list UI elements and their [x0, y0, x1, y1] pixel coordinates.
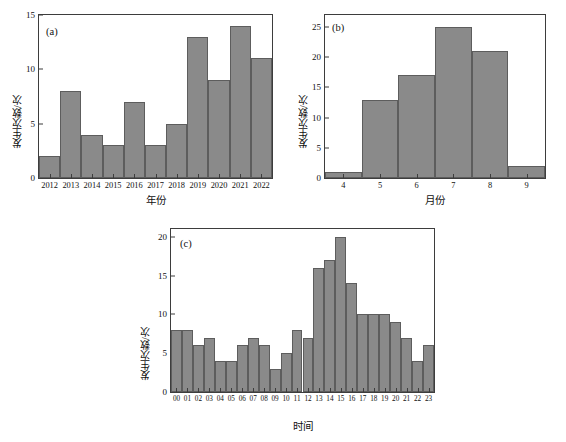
x-tick-label: 5: [378, 178, 382, 190]
y-tick-label: 0: [163, 387, 172, 397]
bar: [204, 338, 215, 392]
y-tick-label: 15: [312, 82, 325, 92]
bar: [335, 237, 346, 392]
x-tick-label: 04: [217, 392, 224, 403]
panel-c-plot-area: 0510152000010203040506070809101112131415…: [170, 228, 435, 393]
y-tick-mark: [325, 147, 329, 148]
x-tick-label: 18: [370, 392, 377, 403]
bar: [313, 268, 324, 392]
bar: [472, 51, 509, 178]
x-tick-label: 2020: [211, 178, 228, 190]
x-tick-label: 09: [272, 392, 279, 403]
x-tick-label: 2015: [105, 178, 122, 190]
bar: [379, 314, 390, 392]
x-tick-label: 2022: [253, 178, 270, 190]
y-tick-label: 0: [317, 173, 326, 183]
panel-b-tag: (b): [332, 22, 344, 33]
bar: [60, 91, 81, 178]
y-tick-label: 20: [158, 232, 171, 242]
y-tick-label: 5: [317, 143, 326, 153]
x-tick-label: 2021: [232, 178, 249, 190]
x-tick-label: 10: [282, 392, 289, 403]
bar: [166, 124, 187, 178]
panel-a-y-axis-label: 发生次数/次: [10, 38, 25, 148]
panel-b-y-axis-label: 发生次数/次: [296, 38, 311, 148]
y-tick-label: 15: [26, 10, 39, 20]
y-tick-label: 20: [312, 52, 325, 62]
panel-c-x-axis-label: 时间: [170, 418, 435, 433]
x-tick-label: 15: [337, 392, 344, 403]
bar: [230, 26, 251, 178]
y-tick-mark: [39, 15, 43, 16]
bar: [357, 314, 368, 392]
x-tick-label: 07: [250, 392, 257, 403]
x-tick-label: 22: [414, 392, 421, 403]
panel-a-x-axis-label: 年份: [38, 192, 273, 207]
bar: [292, 330, 303, 392]
panel-a-plot-area: 0510152012201320142015201620172018201920…: [38, 14, 273, 179]
bar: [401, 338, 412, 392]
x-tick-label: 8: [488, 178, 492, 190]
x-tick-label: 2012: [41, 178, 58, 190]
bar: [208, 80, 229, 178]
x-tick-label: 2016: [126, 178, 143, 190]
y-tick-mark: [325, 87, 329, 88]
y-tick-mark: [171, 275, 175, 276]
x-tick-label: 03: [206, 392, 213, 403]
x-tick-label: 2018: [168, 178, 185, 190]
x-tick-label: 16: [348, 392, 355, 403]
bar: [248, 338, 259, 392]
panel-c-tag: (c): [180, 238, 192, 249]
x-tick-label: 4: [341, 178, 345, 190]
y-tick-mark: [39, 69, 43, 70]
bar: [124, 102, 145, 178]
bar: [281, 353, 292, 392]
y-tick-mark: [39, 123, 43, 124]
y-tick-mark: [171, 314, 175, 315]
y-tick-label: 10: [158, 309, 171, 319]
bar: [423, 345, 434, 392]
x-tick-label: 19: [381, 392, 388, 403]
x-tick-label: 6: [415, 178, 419, 190]
x-tick-label: 02: [195, 392, 202, 403]
y-tick-label: 5: [31, 119, 40, 129]
bar: [362, 100, 399, 178]
panel-b-plot-area: 0510152025456789: [324, 14, 546, 179]
x-tick-label: 13: [315, 392, 322, 403]
y-tick-label: 0: [31, 173, 40, 183]
y-tick-label: 15: [158, 271, 171, 281]
panel-b-x-axis-label: 月份: [324, 192, 546, 207]
x-tick-label: 23: [425, 392, 432, 403]
x-tick-label: 17: [359, 392, 366, 403]
bar: [251, 58, 272, 178]
y-tick-mark: [325, 27, 329, 28]
x-tick-label: 2014: [84, 178, 101, 190]
bar: [171, 330, 182, 392]
x-tick-label: 21: [403, 392, 410, 403]
x-tick-label: 00: [173, 392, 180, 403]
y-tick-label: 5: [163, 348, 172, 358]
y-tick-label: 10: [26, 64, 39, 74]
bar: [324, 260, 335, 392]
x-tick-label: 05: [228, 392, 235, 403]
x-tick-label: 11: [294, 392, 301, 403]
x-tick-label: 20: [392, 392, 399, 403]
x-tick-label: 06: [239, 392, 246, 403]
bar: [368, 314, 379, 392]
panel-c-y-axis-label: 发生次数/次: [138, 270, 153, 380]
x-tick-label: 2019: [189, 178, 206, 190]
x-tick-label: 01: [184, 392, 191, 403]
panel-a-tag: (a): [46, 26, 58, 37]
y-tick-mark: [171, 236, 175, 237]
bar: [237, 345, 248, 392]
bar: [390, 322, 401, 392]
bar: [187, 37, 208, 178]
x-tick-label: 7: [451, 178, 455, 190]
chart-panel-b: 发生次数/次 (b) 0510152025456789 月份: [290, 0, 566, 205]
bar: [346, 283, 357, 392]
x-tick-label: 12: [304, 392, 311, 403]
y-tick-mark: [325, 57, 329, 58]
x-tick-label: 14: [326, 392, 333, 403]
bar: [303, 338, 314, 392]
x-tick-label: 2013: [62, 178, 79, 190]
